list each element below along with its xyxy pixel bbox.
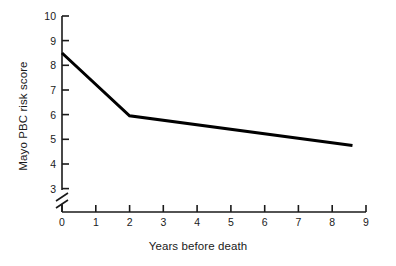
x-tick-label-8: 8 (322, 216, 342, 228)
y-tick-label-7: 7 (30, 84, 56, 96)
x-axis-ticks (62, 205, 366, 212)
y-tick-label-9: 9 (30, 35, 56, 47)
x-tick-label-0: 0 (52, 216, 72, 228)
y-axis-ticks (62, 16, 69, 189)
x-tick-label-9: 9 (356, 216, 376, 228)
x-tick-label-6: 6 (255, 216, 275, 228)
y-tick-label-3: 3 (30, 183, 56, 195)
x-tick-label-2: 2 (120, 216, 140, 228)
x-tick-label-4: 4 (187, 216, 207, 228)
x-axis-title: Years before death (0, 240, 396, 252)
x-tick-label-3: 3 (153, 216, 173, 228)
x-tick-label-5: 5 (221, 216, 241, 228)
y-tick-label-4: 4 (30, 158, 56, 170)
series-line-mayo-pbc-risk-score (62, 53, 352, 145)
y-tick-label-10: 10 (30, 10, 56, 22)
y-tick-label-8: 8 (30, 59, 56, 71)
x-tick-label-1: 1 (86, 216, 106, 228)
chart-figure: 10 9 8 7 6 5 4 3 0 1 2 3 4 5 6 7 8 9 May… (0, 0, 396, 266)
y-axis-title: Mayo PBC risk score (17, 46, 29, 186)
x-tick-label-7: 7 (288, 216, 308, 228)
y-tick-label-6: 6 (30, 109, 56, 121)
y-tick-label-5: 5 (30, 133, 56, 145)
